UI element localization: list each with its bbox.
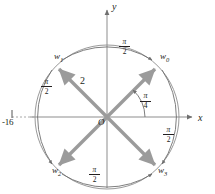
separation-bottom-denominator: 2 bbox=[89, 176, 100, 184]
complex-roots-diagram: x y O 2 -16 w0 w1 w2 w3 π 4 π 2 π 2 π 2 … bbox=[0, 0, 215, 194]
separation-bottom-numerator: π bbox=[89, 166, 100, 174]
separation-label-right: π 2 bbox=[163, 126, 174, 143]
radius-label: 2 bbox=[80, 76, 85, 86]
real-axis-point-label: -16 bbox=[2, 118, 13, 127]
angle-pi-over-4-numerator: π bbox=[140, 92, 151, 100]
separation-top-numerator: π bbox=[119, 38, 130, 46]
diagram-canvas bbox=[0, 0, 215, 194]
separation-left-denominator: 2 bbox=[41, 88, 52, 96]
y-axis-label: y bbox=[112, 2, 116, 12]
root-label-w3: w3 bbox=[158, 166, 167, 177]
separation-right-denominator: 2 bbox=[163, 136, 174, 144]
separation-left-numerator: π bbox=[41, 78, 52, 86]
separation-label-bottom: π 2 bbox=[89, 166, 100, 183]
separation-label-top: π 2 bbox=[119, 38, 130, 55]
angle-label-pi-over-4: π 4 bbox=[140, 92, 151, 110]
root-label-w0-index: 0 bbox=[166, 56, 169, 63]
origin-label: O bbox=[98, 118, 105, 127]
separation-label-left: π 2 bbox=[41, 78, 52, 95]
separation-right-numerator: π bbox=[163, 126, 174, 134]
root-label-w1-index: 1 bbox=[60, 56, 63, 63]
root-label-w2-index: 2 bbox=[58, 170, 61, 177]
separation-top-denominator: 2 bbox=[119, 48, 130, 56]
angle-pi-over-4-denominator: 4 bbox=[140, 102, 151, 110]
root-label-w2: w2 bbox=[52, 166, 61, 177]
root-label-w0: w0 bbox=[160, 52, 169, 63]
root-vector-w3 bbox=[107, 117, 155, 165]
root-label-w3-index: 3 bbox=[164, 170, 167, 177]
x-axis-label: x bbox=[198, 113, 202, 123]
root-label-w1: w1 bbox=[54, 52, 63, 63]
